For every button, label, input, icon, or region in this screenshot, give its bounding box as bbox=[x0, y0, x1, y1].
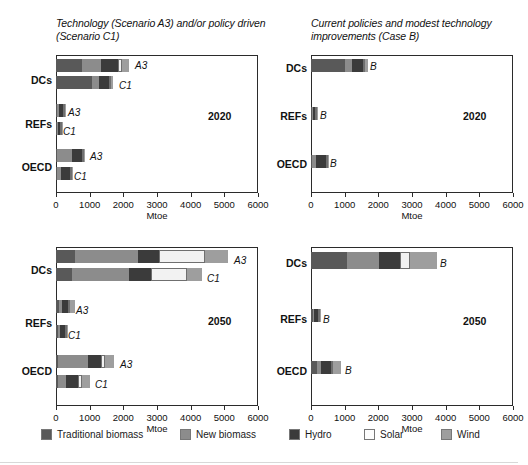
axis-tick bbox=[311, 193, 312, 197]
bar-oecd-a3 bbox=[56, 149, 85, 162]
axis-tick bbox=[311, 406, 312, 410]
segment-new-biomass bbox=[75, 250, 138, 263]
axis-tick bbox=[378, 193, 379, 197]
axis-tick bbox=[412, 406, 413, 410]
segment-new-biomass bbox=[72, 268, 129, 281]
era-label: 2050 bbox=[208, 315, 231, 327]
axis-tick-label: 6000 bbox=[493, 412, 528, 423]
axis-tick bbox=[378, 406, 379, 410]
axis-tick bbox=[56, 406, 57, 410]
axis-tick bbox=[157, 406, 158, 410]
segment-new-biomass bbox=[347, 252, 378, 269]
axis-tick bbox=[191, 193, 192, 197]
group-label-oecd: OECD bbox=[255, 158, 307, 170]
axis-tick bbox=[90, 406, 91, 410]
segment-traditional-biomass bbox=[311, 59, 345, 72]
axis-tick bbox=[56, 193, 57, 197]
segment-wind bbox=[84, 149, 86, 162]
bar-tag-oecd-c1: C1 bbox=[74, 171, 87, 182]
segment-hydro bbox=[101, 59, 118, 72]
segment-traditional-biomass bbox=[311, 252, 347, 269]
bar-dcs-a3 bbox=[56, 59, 129, 72]
bar-oecd-c1 bbox=[56, 375, 90, 388]
bar-dcs-c1 bbox=[56, 76, 113, 89]
axis-tick bbox=[191, 406, 192, 410]
x-axis-title: Mtoe bbox=[127, 210, 187, 221]
bar-tag-dcs-c1: C1 bbox=[207, 273, 220, 284]
segment-wind bbox=[65, 104, 66, 117]
legend-item-new-biomass: New biomass bbox=[180, 429, 256, 440]
segment-hydro bbox=[321, 361, 331, 374]
legend-item-solar: Solar bbox=[364, 429, 403, 440]
era-label: 2020 bbox=[463, 110, 486, 122]
bar-tag-dcs-a3: A3 bbox=[135, 60, 147, 71]
segment-solar bbox=[400, 252, 410, 269]
segment-hydro bbox=[352, 59, 363, 72]
bar-tag-refs-b: B bbox=[320, 110, 327, 121]
segment-new-biomass bbox=[82, 59, 101, 72]
legend-swatch-hydro-icon bbox=[289, 429, 300, 440]
segment-hydro bbox=[379, 252, 400, 269]
legend-item-traditional-biomass: Traditional biomass bbox=[41, 429, 143, 440]
bar-tag-oecd-b: B bbox=[345, 365, 352, 376]
bar-dcs-b bbox=[311, 252, 437, 269]
panel-left-2020: Technology (Scenario A3) and/or policy d… bbox=[0, 0, 266, 222]
axis-tick bbox=[258, 406, 259, 410]
plot-area bbox=[311, 55, 513, 193]
axis-tick bbox=[513, 406, 514, 410]
x-axis-title: Mtoe bbox=[382, 210, 442, 221]
bar-refs-a3 bbox=[56, 300, 75, 313]
legend-swatch-wind-icon bbox=[441, 429, 452, 440]
legend-label: Wind bbox=[457, 429, 480, 440]
bar-tag-refs-c1: C1 bbox=[68, 330, 81, 341]
segment-wind bbox=[410, 252, 437, 269]
segment-wind bbox=[317, 107, 318, 120]
bar-dcs-c1 bbox=[56, 268, 202, 281]
segment-traditional-biomass bbox=[56, 76, 92, 89]
legend-swatch-new-biomass-icon bbox=[180, 429, 191, 440]
axis-tick bbox=[446, 406, 447, 410]
axis-tick bbox=[513, 193, 514, 197]
group-label-oecd: OECD bbox=[0, 161, 52, 173]
axis-tick bbox=[90, 193, 91, 197]
bar-refs-c1 bbox=[56, 122, 63, 135]
segment-wind bbox=[122, 59, 129, 72]
bar-tag-dcs-b: B bbox=[370, 61, 377, 72]
segment-hydro bbox=[88, 355, 101, 368]
bar-tag-dcs-c1: C1 bbox=[119, 80, 132, 91]
group-label-dcs: DCs bbox=[261, 257, 307, 269]
group-label-refs: REFs bbox=[261, 110, 307, 122]
panel-left-2050: 2050 DCs REFs OECD A3 C1 A3 bbox=[0, 222, 266, 422]
bar-tag-oecd-a3: A3 bbox=[90, 151, 102, 162]
bar-tag-refs-b: B bbox=[323, 314, 330, 325]
group-label-dcs: DCs bbox=[6, 74, 52, 86]
legend-label: Traditional biomass bbox=[57, 429, 143, 440]
group-label-oecd: OECD bbox=[255, 365, 307, 377]
legend-item-wind: Wind bbox=[441, 429, 480, 440]
bar-refs-b bbox=[311, 107, 317, 120]
bar-tag-dcs-b: B bbox=[440, 258, 447, 269]
panel-title: Technology (Scenario A3) and/or policy d… bbox=[56, 17, 266, 42]
x-axis: 0 1000 2000 3000 4000 5000 6000 Mtoe bbox=[311, 193, 513, 194]
axis-tick-label: 6000 bbox=[493, 199, 528, 210]
bar-refs-c1 bbox=[56, 325, 68, 338]
segment-new-biomass bbox=[92, 76, 99, 89]
legend-label: Hydro bbox=[305, 429, 332, 440]
panel-title: Current policies and modest technology i… bbox=[311, 17, 521, 42]
chart-legend: Traditional biomass New biomass Hydro So… bbox=[0, 425, 518, 447]
segment-wind bbox=[333, 361, 341, 374]
bar-tag-refs-a3: A3 bbox=[68, 107, 80, 118]
segment-wind bbox=[365, 59, 367, 72]
group-label-refs: REFs bbox=[261, 313, 307, 325]
segment-solar bbox=[151, 268, 188, 281]
legend-item-hydro: Hydro bbox=[289, 429, 332, 440]
panel-right-2050: 2050 DCs REFs OECD B B B bbox=[260, 222, 518, 422]
segment-wind bbox=[82, 375, 90, 388]
segment-new-biomass bbox=[345, 59, 353, 72]
segment-wind bbox=[328, 155, 329, 168]
axis-tick bbox=[123, 193, 124, 197]
panel-right-2020: Current policies and modest technology i… bbox=[260, 0, 518, 222]
bar-oecd-b bbox=[311, 155, 329, 168]
segment-wind bbox=[111, 76, 113, 89]
